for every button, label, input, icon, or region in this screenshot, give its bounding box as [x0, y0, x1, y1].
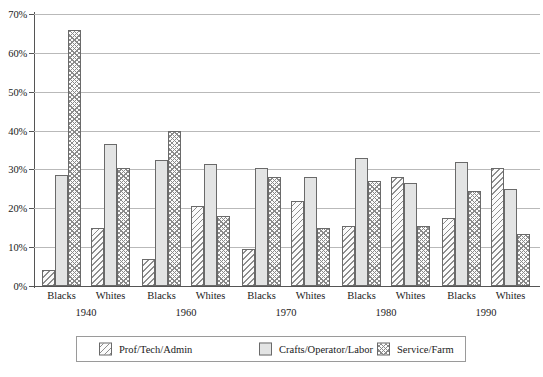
tick-mark: [29, 92, 34, 93]
x-axis-group-label: 1980: [376, 307, 397, 318]
y-axis-tick-label: 50%: [8, 86, 27, 97]
bar: [417, 226, 430, 286]
bar: [304, 177, 317, 286]
legend-swatch-icon: [259, 343, 272, 356]
bar: [468, 191, 481, 286]
x-axis-subgroup-label: Blacks: [447, 290, 476, 301]
legend-item-label: Service/Farm: [397, 344, 454, 355]
legend-item: Crafts/Operator/Labor: [259, 343, 373, 356]
x-axis-subgroup-label: Blacks: [347, 290, 376, 301]
y-axis-tick-label: 70%: [8, 9, 27, 20]
bar: [68, 30, 81, 286]
gridline: [34, 53, 540, 54]
tick-mark: [29, 14, 34, 15]
x-axis-group-label: 1940: [76, 307, 97, 318]
bar-chart: 0%10%20%30%40%50%60%70% BlacksWhites1940…: [0, 0, 543, 377]
y-axis-tick-label: 0%: [13, 281, 27, 292]
y-axis-tick-label: 20%: [8, 203, 27, 214]
x-axis-line: [34, 286, 540, 287]
x-axis-subgroup-label: Blacks: [47, 290, 76, 301]
x-axis-subgroup-label: Blacks: [147, 290, 176, 301]
bar: [404, 183, 417, 286]
y-axis-tick-label: 60%: [8, 47, 27, 58]
x-axis-group-label: 1990: [476, 307, 497, 318]
tick-mark: [29, 247, 34, 248]
gridline: [34, 14, 540, 15]
bar: [91, 228, 104, 286]
bar: [368, 181, 381, 286]
bar: [42, 270, 55, 286]
plot-area: 0%10%20%30%40%50%60%70%: [34, 14, 540, 286]
bar: [504, 189, 517, 286]
x-axis-subgroup-label: Whites: [96, 290, 126, 301]
y-axis-tick-label: 10%: [8, 242, 27, 253]
bar: [117, 168, 130, 287]
tick-mark: [29, 53, 34, 54]
bar: [255, 168, 268, 287]
legend-item: Prof/Tech/Admin: [99, 343, 192, 356]
x-axis-subgroup-label: Whites: [396, 290, 426, 301]
bar: [491, 168, 504, 287]
x-axis-subgroup-label: Whites: [496, 290, 526, 301]
bar: [168, 131, 181, 286]
bar: [55, 175, 68, 286]
tick-mark: [29, 286, 34, 287]
x-axis-group-label: 1970: [276, 307, 297, 318]
bar: [442, 218, 455, 286]
x-axis-group-label: 1960: [176, 307, 197, 318]
gridline: [34, 92, 540, 93]
legend-item-label: Prof/Tech/Admin: [119, 344, 192, 355]
bar: [242, 249, 255, 286]
bar: [217, 216, 230, 286]
tick-mark: [29, 169, 34, 170]
legend-item: Service/Farm: [377, 343, 454, 356]
legend-item-label: Crafts/Operator/Labor: [279, 344, 373, 355]
bar: [517, 234, 530, 286]
x-axis-subgroup-label: Blacks: [247, 290, 276, 301]
x-axis-subgroup-label: Whites: [196, 290, 226, 301]
bar: [155, 160, 168, 286]
bar: [317, 228, 330, 286]
bar: [204, 164, 217, 286]
bar: [342, 226, 355, 286]
x-axis-subgroup-label: Whites: [296, 290, 326, 301]
bar: [391, 177, 404, 286]
bar: [104, 144, 117, 286]
y-axis-tick-label: 30%: [8, 164, 27, 175]
bar: [355, 158, 368, 286]
tick-mark: [29, 131, 34, 132]
bar: [268, 177, 281, 286]
bar: [455, 162, 468, 286]
legend-swatch-icon: [377, 343, 390, 356]
gridline: [34, 131, 540, 132]
y-axis-tick-label: 40%: [8, 125, 27, 136]
bar: [142, 259, 155, 286]
bar: [191, 206, 204, 286]
bar: [291, 201, 304, 286]
legend-swatch-icon: [99, 343, 112, 356]
tick-mark: [29, 208, 34, 209]
chart-legend: Prof/Tech/AdminCrafts/Operator/LaborServ…: [76, 336, 466, 362]
